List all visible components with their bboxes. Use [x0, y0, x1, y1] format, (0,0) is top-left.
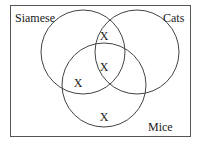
siamese-label: Siamese — [15, 11, 55, 25]
mark-mice-only: X — [100, 110, 109, 124]
mark-siamese-cats: X — [100, 29, 109, 43]
mark-siamese-mice: X — [74, 76, 83, 90]
cats-label: Cats — [163, 11, 185, 25]
mark-all-three: X — [100, 60, 109, 74]
mice-label: Mice — [148, 120, 173, 134]
venn-diagram: Siamese Cats Mice X X X X — [0, 0, 201, 146]
